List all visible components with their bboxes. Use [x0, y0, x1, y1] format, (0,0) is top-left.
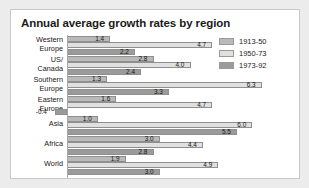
bar-group: 1.06.05.5: [67, 116, 300, 136]
plot-area: Western Europe1.44.72.2US/ Canada2.84.02…: [11, 35, 300, 179]
category-label: Africa: [13, 140, 63, 149]
chart-group-row: Africa3.04.42.8: [11, 136, 300, 156]
chart-group-row: World1.94.93.0: [11, 156, 300, 176]
bar-group: 1.64.7-0.4: [67, 96, 300, 116]
bar-1950-73[interactable]: [67, 42, 212, 48]
category-label: Asia: [13, 120, 63, 129]
category-label: US/ Canada: [13, 56, 63, 73]
bar-value-label: 2.8: [138, 148, 147, 156]
chart-group-row: US/ Canada2.84.02.4: [11, 56, 300, 76]
bar-track: 6.0: [67, 122, 300, 128]
bar-1973-92[interactable]: [55, 109, 67, 115]
bar-track: 2.4: [67, 69, 300, 75]
chart-group-row: Southern Europe1.36.33.3: [11, 76, 300, 96]
bar-group: 1.36.33.3: [67, 76, 300, 96]
bar-track: 2.2: [67, 49, 300, 55]
value-axis-baseline: [67, 35, 68, 179]
chart-group-row: Eastern Europe1.64.7-0.4: [11, 96, 300, 116]
bar-track: 4.9: [67, 162, 300, 168]
bar-track: 4.0: [67, 62, 300, 68]
bar-track: 5.5: [67, 129, 300, 135]
bar-group: 3.04.42.8: [67, 136, 300, 156]
bar-value-label: 2.4: [126, 68, 135, 76]
bar-track: 3.0: [67, 169, 300, 175]
bar-1913-50[interactable]: [67, 76, 107, 82]
bar-1950-73[interactable]: [67, 82, 262, 88]
bar-value-label: 3.0: [145, 168, 154, 176]
bar-track: 6.3: [67, 82, 300, 88]
bar-track: 1.0: [67, 116, 300, 122]
bar-track: -0.4: [67, 109, 300, 115]
bar-value-label: -0.4: [36, 108, 47, 116]
category-label: Southern Europe: [13, 76, 63, 93]
bar-1950-73[interactable]: [67, 102, 212, 108]
bar-track: 4.7: [67, 102, 300, 108]
bar-value-label: 5.5: [222, 128, 231, 136]
bar-group: 1.44.72.2: [67, 36, 300, 56]
bar-track: 4.7: [67, 42, 300, 48]
category-label: Western Europe: [13, 36, 63, 53]
category-label: World: [13, 160, 63, 169]
chart-figure: Annual average growth rates by region 19…: [0, 0, 309, 188]
bar-1950-73[interactable]: [67, 162, 218, 168]
bar-group: 1.94.93.0: [67, 156, 300, 176]
bar-track: 1.3: [67, 76, 300, 82]
bar-track: 2.8: [67, 149, 300, 155]
chart-group-row: Asia1.06.05.5: [11, 116, 300, 136]
bar-group: 2.84.02.4: [67, 56, 300, 76]
chart-panel: Annual average growth rates by region 19…: [10, 9, 300, 179]
chart-group-row: Western Europe1.44.72.2: [11, 36, 300, 56]
bar-1950-73[interactable]: [67, 142, 203, 148]
bar-track: 4.4: [67, 142, 300, 148]
bar-value-label: 2.2: [120, 48, 129, 56]
bar-track: 1.4: [67, 36, 300, 42]
bar-track: 1.9: [67, 156, 300, 162]
bar-value-label: 3.3: [154, 88, 163, 96]
page-title: Annual average growth rates by region: [21, 17, 230, 29]
bar-track: 3.0: [67, 136, 300, 142]
bar-track: 1.6: [67, 96, 300, 102]
